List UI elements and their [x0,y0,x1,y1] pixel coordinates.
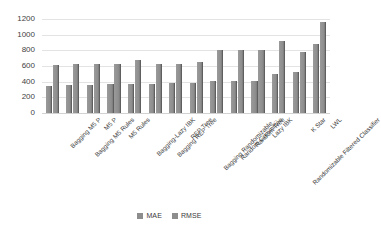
bar-group [149,19,162,113]
chart-legend: MAERMSE [0,212,339,219]
bar-rmse [238,50,244,113]
bar-group [128,19,141,113]
bar-group [251,19,264,113]
bar-rmse [114,64,120,113]
legend-item[interactable]: RMSE [172,212,202,219]
bar-mae [190,83,196,113]
bar-group [231,19,244,113]
bar-mae [87,85,93,113]
bar-mae [272,74,278,113]
bar-mae [149,84,155,113]
bar-group [190,19,203,113]
bar-group [293,19,306,113]
bar-rmse [300,52,306,113]
bar-rmse [73,64,79,113]
y-tick-label: 800 [22,46,35,54]
bar-group [210,19,223,113]
bar-rmse [176,64,182,113]
bar-mae [169,83,175,113]
bar-rmse [217,50,223,113]
y-tick-label: 0 [31,109,35,117]
bar-group [66,19,79,113]
y-tick-label: 200 [22,93,35,101]
bar-mae [66,85,72,113]
bar-group [313,19,326,113]
bar-group [46,19,59,113]
bar-mae [251,81,257,113]
bar-mae [46,86,52,113]
plot-area [42,19,330,113]
bar-rmse [197,62,203,113]
bar-group [169,19,182,113]
y-tick-label: 400 [22,78,35,86]
legend-swatch-icon [172,213,178,219]
bar-rmse [135,60,141,113]
bar-mae [313,44,319,113]
x-tick-label: K Star [309,116,327,134]
chart-title-cropped [0,0,339,9]
bar-rmse [94,64,100,113]
bar-mae [128,84,134,113]
y-axis-labels: 120010008006004002000 [0,12,38,120]
bar-rmse [258,50,264,113]
x-tick-label: LWL [328,116,342,130]
legend-label: RMSE [181,212,202,219]
legend-label: MAE [146,212,161,219]
y-tick-label: 1200 [17,15,35,23]
y-tick-label: 1000 [17,31,35,39]
x-axis-labels: Bagging M5 PBagging M5 RulesM5 PM5 Rules… [42,114,330,209]
bar-rmse [279,41,285,113]
bar-mae [107,84,113,113]
legend-swatch-icon [137,213,143,219]
bar-mae [293,72,299,113]
bar-group [272,19,285,113]
legend-item[interactable]: MAE [137,212,161,219]
bar-rmse [320,22,326,113]
bar-mae [210,81,216,114]
bar-groups [42,19,330,113]
bar-rmse [156,64,162,113]
bar-rmse [53,65,59,113]
x-tick-label: Bagging M5 P [69,116,102,149]
bar-group [107,19,120,113]
bar-group [87,19,100,113]
bar-mae [231,81,237,113]
y-tick-label: 600 [22,62,35,70]
